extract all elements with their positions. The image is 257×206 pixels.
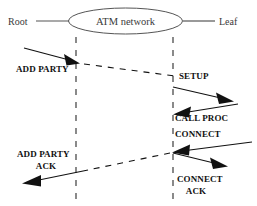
- setup-label: SETUP: [179, 71, 209, 81]
- lifelines: [76, 37, 173, 201]
- network-hop-setup-dashed: [84, 64, 175, 76]
- add-party-ack-label-line2: ACK: [36, 161, 56, 171]
- connect-arrow-line: [182, 142, 252, 151]
- connect-ack-label-line1: CONNECT: [177, 174, 223, 184]
- message-add-party-ack: ADD PARTY ACK: [17, 149, 88, 187]
- diagram-canvas: Root ATM network Leaf ADD PARTY SETUP: [0, 0, 257, 206]
- leaf-node-label: Leaf: [219, 16, 238, 27]
- message-connect: CONNECT: [172, 129, 252, 156]
- root-node-label: Root: [8, 16, 28, 27]
- network-internal-hop-bottom: [88, 153, 170, 170]
- add-party-ack-arrowhead: [22, 175, 41, 187]
- message-add-party: ADD PARTY: [16, 48, 80, 74]
- setup-arrow-line: [173, 87, 225, 99]
- message-setup: SETUP: [173, 71, 234, 104]
- topology-row: Root ATM network Leaf: [8, 8, 238, 34]
- message-connect-ack: CONNECT ACK: [173, 153, 228, 196]
- network-internal-hop-top: [84, 64, 175, 76]
- connect-ack-label-line2: ACK: [186, 186, 206, 196]
- add-party-label: ADD PARTY: [16, 64, 69, 74]
- sequence-diagram: Root ATM network Leaf ADD PARTY SETUP: [0, 0, 257, 206]
- atm-network-label: ATM network: [96, 16, 156, 27]
- message-call-proc: CALL PROC: [173, 104, 238, 123]
- connect-ack-arrowhead: [210, 158, 228, 170]
- setup-arrowhead: [216, 93, 234, 105]
- connect-label: CONNECT: [175, 129, 221, 139]
- add-party-ack-arrow-line: [34, 170, 88, 181]
- add-party-ack-label-line1: ADD PARTY: [17, 149, 70, 159]
- network-hop-ack-dashed: [88, 153, 170, 170]
- call-proc-label: CALL PROC: [175, 113, 228, 123]
